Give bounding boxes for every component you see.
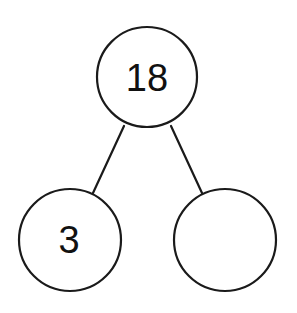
node-part-left-label: 3 [58, 219, 79, 261]
node-part-right[interactable] [174, 189, 276, 291]
edge-whole-to-left-part [93, 126, 124, 193]
node-whole: 18 [97, 27, 197, 127]
node-part-right-circle[interactable] [174, 189, 276, 291]
node-part-left: 3 [19, 189, 121, 291]
number-bond-diagram: 18 3 [0, 0, 297, 313]
node-whole-label: 18 [126, 57, 168, 99]
edge-whole-to-right-part [171, 126, 202, 193]
